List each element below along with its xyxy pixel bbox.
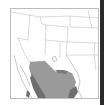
map-canvas <box>0 0 104 105</box>
edge-strip <box>100 0 104 105</box>
range-map <box>0 0 104 105</box>
